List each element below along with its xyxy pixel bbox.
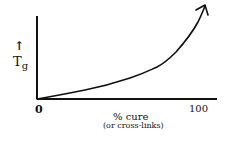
x-tick-0: 0 xyxy=(35,104,43,115)
x-axis-sublabel: (or cross-links) xyxy=(103,122,164,130)
x-tick-100: 100 xyxy=(189,104,208,114)
tg-vs-cure-chart: 0 100 ↑ Tg % cure (or cross-links) xyxy=(0,0,226,145)
y-label-subscript: g xyxy=(22,60,28,71)
up-arrow-icon: ↑ xyxy=(14,40,24,52)
data-curve xyxy=(37,6,205,99)
y-axis-label: Tg xyxy=(13,55,28,71)
y-label-main: T xyxy=(13,54,22,69)
